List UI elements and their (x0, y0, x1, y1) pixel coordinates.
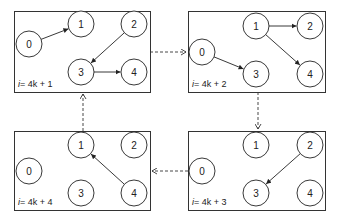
edge-0-to-1 (41, 29, 68, 39)
node-label: 4 (307, 188, 313, 199)
node-label: 1 (253, 21, 259, 32)
node-label: 2 (307, 140, 313, 151)
node-0: 0 (16, 31, 42, 57)
edge-2-to-3 (266, 154, 300, 184)
edge-0-to-3 (214, 57, 243, 69)
node-1: 1 (243, 13, 269, 39)
cycle-diagram: 01234i= 4k + 101234i= 4k + 201234i= 4k +… (0, 0, 339, 222)
node-1: 1 (68, 132, 94, 158)
node-2: 2 (297, 132, 323, 158)
edge-2-to-3 (91, 33, 124, 63)
panel-caption: i= 4k + 3 (192, 197, 227, 207)
panel-p3: 01234i= 4k + 3 (189, 132, 326, 211)
panel-p1: 01234i= 4k + 1 (15, 11, 151, 93)
panel-caption: i= 4k + 1 (18, 79, 53, 89)
node-1: 1 (243, 132, 269, 158)
node-label: 2 (131, 140, 137, 151)
node-2: 2 (121, 132, 147, 158)
panel-caption: i= 4k + 2 (192, 79, 227, 89)
flow-arrows (83, 52, 258, 171)
node-4: 4 (297, 61, 323, 87)
node-label: 4 (307, 69, 313, 80)
node-label: 1 (253, 140, 259, 151)
panel-p2: 01234i= 4k + 2 (189, 12, 326, 93)
node-label: 3 (78, 67, 84, 78)
edge-4-to-1 (91, 154, 124, 184)
node-3: 3 (243, 180, 269, 206)
node-0: 0 (189, 39, 215, 65)
node-label: 1 (78, 19, 84, 30)
node-label: 4 (131, 188, 137, 199)
node-3: 3 (68, 59, 94, 85)
node-label: 2 (131, 19, 137, 30)
node-2: 2 (121, 11, 147, 37)
node-label: 1 (78, 140, 84, 151)
edge-1-to-4 (266, 35, 300, 65)
panel-caption: i= 4k + 4 (18, 197, 53, 207)
node-0: 0 (16, 158, 42, 184)
node-label: 3 (253, 188, 259, 199)
node-1: 1 (68, 11, 94, 37)
node-0: 0 (189, 158, 215, 184)
node-3: 3 (68, 180, 94, 206)
node-3: 3 (243, 61, 269, 87)
node-label: 3 (253, 69, 259, 80)
node-label: 0 (26, 39, 32, 50)
node-4: 4 (297, 180, 323, 206)
node-label: 0 (199, 166, 205, 177)
node-4: 4 (121, 59, 147, 85)
node-label: 0 (26, 166, 32, 177)
node-2: 2 (297, 13, 323, 39)
panel-p4: 01234i= 4k + 4 (15, 132, 151, 211)
node-label: 2 (307, 21, 313, 32)
node-label: 3 (78, 188, 84, 199)
node-label: 0 (199, 47, 205, 58)
node-4: 4 (121, 180, 147, 206)
node-label: 4 (131, 67, 137, 78)
